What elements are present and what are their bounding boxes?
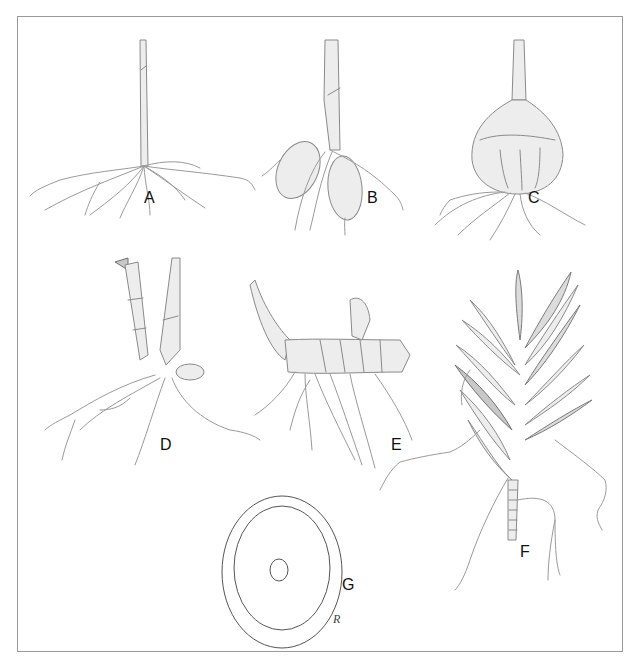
panel-f-drawing (380, 270, 606, 590)
panel-d-drawing (45, 258, 260, 465)
botanical-illustration (0, 0, 634, 666)
label-f: F (520, 544, 530, 560)
panel-g-drawing (222, 496, 342, 648)
panel-e-drawing (250, 280, 412, 468)
label-b: B (367, 190, 378, 206)
panel-b-drawing (262, 40, 403, 235)
artist-signature: R (333, 612, 340, 627)
label-d: D (160, 437, 172, 453)
panel-a-drawing (30, 40, 255, 218)
label-g: G (342, 577, 354, 593)
label-c: C (528, 190, 540, 206)
panel-c-drawing (435, 40, 585, 240)
label-a: A (144, 190, 155, 206)
label-e: E (391, 437, 402, 453)
